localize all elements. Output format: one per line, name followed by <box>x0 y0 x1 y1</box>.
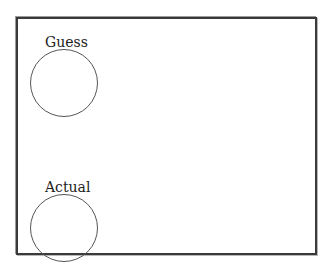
guess-circle[interactable] <box>30 49 98 117</box>
actual-circle <box>30 194 98 262</box>
guess-label: Guess <box>45 34 88 50</box>
actual-label: Actual <box>45 179 90 195</box>
